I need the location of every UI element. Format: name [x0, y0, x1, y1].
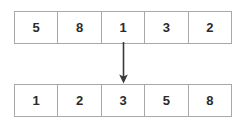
output-cell-4: 8 — [189, 85, 231, 116]
input-cell-2: 1 — [102, 12, 145, 43]
array-sort-diagram: 5 8 1 3 2 1 2 3 5 8 — [0, 0, 246, 123]
input-array-row: 5 8 1 3 2 — [14, 11, 232, 44]
input-cell-3-value: 3 — [163, 21, 170, 34]
output-cell-3-value: 5 — [163, 94, 170, 107]
output-cell-0-value: 1 — [33, 94, 40, 107]
input-cell-3: 3 — [145, 12, 188, 43]
output-cell-3: 5 — [145, 85, 188, 116]
output-cell-2-value: 3 — [119, 94, 126, 107]
output-array-row: 1 2 3 5 8 — [14, 84, 232, 117]
output-cell-1-value: 2 — [76, 94, 83, 107]
input-cell-0: 5 — [15, 12, 58, 43]
input-cell-1: 8 — [58, 12, 101, 43]
downward-arrow-icon — [112, 42, 136, 86]
output-cell-1: 2 — [58, 85, 101, 116]
input-cell-4: 2 — [189, 12, 231, 43]
input-cell-2-value: 1 — [119, 21, 126, 34]
output-cell-4-value: 8 — [206, 94, 213, 107]
input-cell-1-value: 8 — [76, 21, 83, 34]
output-cell-2: 3 — [102, 85, 145, 116]
output-cell-0: 1 — [15, 85, 58, 116]
input-cell-4-value: 2 — [206, 21, 213, 34]
input-cell-0-value: 5 — [33, 21, 40, 34]
